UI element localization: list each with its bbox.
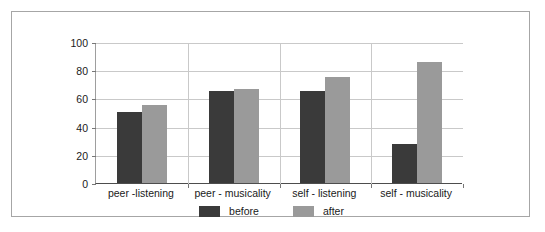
y-axis-tick-label: 40 <box>48 123 88 133</box>
bar-after-3 <box>417 62 442 183</box>
category-separator <box>280 43 281 184</box>
category-label: self - musicality <box>370 187 462 199</box>
category-label: peer -listening <box>95 187 187 199</box>
y-tick <box>92 71 96 72</box>
chart-legend: beforeafter <box>12 206 531 217</box>
y-axis-tick-label: 100 <box>48 38 88 48</box>
legend-entry-before: before <box>199 206 259 217</box>
bar-before-1 <box>209 91 234 183</box>
bar-after-1 <box>234 89 259 183</box>
y-axis-tick-label: 60 <box>48 94 88 104</box>
legend-swatch-icon <box>199 206 220 217</box>
legend-label: before <box>229 206 259 217</box>
y-axis-tick-label: 20 <box>48 151 88 161</box>
category-label: peer - musicality <box>187 187 279 199</box>
y-tick <box>92 184 96 185</box>
category-separator <box>188 43 189 184</box>
x-tick <box>463 184 464 188</box>
y-tick <box>92 43 96 44</box>
category-label: self - listening <box>279 187 371 199</box>
legend-entry-after: after <box>293 206 344 217</box>
y-axis-tick-label: 80 <box>48 66 88 76</box>
bar-after-2 <box>325 77 350 183</box>
legend-swatch-icon <box>293 206 314 217</box>
bar-before-2 <box>300 91 325 183</box>
bar-before-3 <box>392 144 417 183</box>
y-tick <box>92 99 96 100</box>
category-separator <box>371 43 372 184</box>
legend-label: after <box>323 206 344 217</box>
y-tick <box>92 156 96 157</box>
plot-area: 020406080100 <box>95 43 462 184</box>
y-axis-tick-label: 0 <box>48 179 88 189</box>
chart-frame: 020406080100 peer -listeningpeer - music… <box>11 11 530 217</box>
bar-after-0 <box>142 105 167 183</box>
bar-before-0 <box>117 112 142 183</box>
y-tick <box>92 128 96 129</box>
